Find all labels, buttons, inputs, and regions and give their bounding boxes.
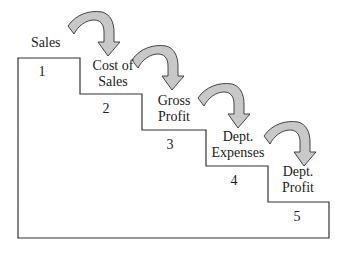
curved-arrow-icon-2 [132,46,184,90]
label-line: Cost of [88,58,138,74]
label-line: Expenses [210,145,266,161]
label-line: Profit [152,109,196,125]
label-sales: Sales [31,35,61,51]
step-number-3: 3 [160,137,180,153]
label-line: Dept. [276,164,320,180]
curved-arrow-icon-4 [264,122,316,166]
label-gross-profit: Gross Profit [152,93,196,125]
step-number-5: 5 [287,209,307,225]
label-line: Dept. [210,129,266,145]
label-line: Profit [276,180,320,196]
curved-arrow-icon-1 [68,12,120,56]
step-number-1: 1 [32,64,52,80]
label-dept-expenses: Dept. Expenses [210,129,266,161]
curved-arrow-icon-3 [198,84,250,128]
staircase-diagram: Sales 1 Cost of Sales 2 Gross Profit 3 D… [0,0,345,254]
label-cost-of-sales: Cost of Sales [88,58,138,90]
label-line: Sales [88,74,138,90]
step-number-2: 2 [96,101,116,117]
label-dept-profit: Dept. Profit [276,164,320,196]
step-number-4: 4 [224,173,244,189]
label-line: Gross [152,93,196,109]
